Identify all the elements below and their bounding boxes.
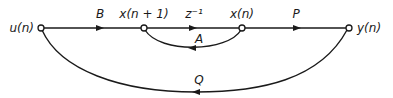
node-x (239, 25, 245, 31)
arrow-q-icon (192, 89, 200, 95)
arrow-z-inverse-icon (189, 25, 197, 31)
arrow-b-icon (96, 25, 104, 31)
label-y: y(n) (356, 21, 381, 35)
node-x-next (141, 25, 147, 31)
edge-a (145, 30, 241, 47)
gain-a: A (194, 32, 203, 46)
label-x: x(n) (229, 7, 254, 21)
gain-q: Q (194, 73, 203, 87)
signal-flow-graph: u(n) x(n + 1) x(n) y(n) B z⁻¹ P A Q (0, 0, 393, 98)
label-u: u(n) (9, 21, 34, 35)
gain-b: B (96, 7, 104, 21)
gain-z-inverse: z⁻¹ (184, 7, 203, 21)
node-y (346, 25, 352, 31)
node-u (38, 25, 44, 31)
arrow-p-icon (293, 25, 301, 31)
gain-p: P (292, 7, 300, 21)
label-x-next: x(n + 1) (118, 7, 168, 21)
